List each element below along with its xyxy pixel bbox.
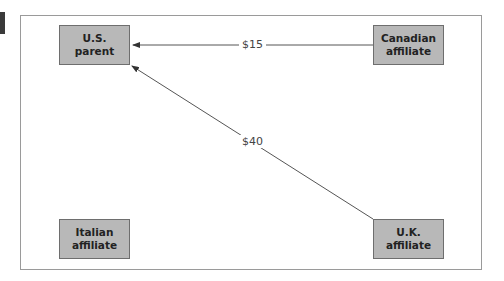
node-italian-affiliate: Italian affiliate bbox=[59, 219, 130, 259]
node-us-parent: U.S. parent bbox=[59, 25, 130, 65]
node-label-line1: Canadian bbox=[381, 32, 436, 45]
node-label-line1: U.S. bbox=[82, 32, 106, 45]
node-label-line2: affiliate bbox=[386, 45, 431, 58]
node-label-line2: affiliate bbox=[386, 239, 431, 252]
node-label-line1: U.K. bbox=[396, 226, 421, 239]
node-label-line2: affiliate bbox=[72, 239, 117, 252]
node-uk-affiliate: U.K. affiliate bbox=[373, 219, 444, 259]
flow-amount-uk: $40 bbox=[239, 135, 266, 148]
node-label-line2: parent bbox=[75, 45, 114, 58]
node-label-line1: Italian bbox=[76, 226, 114, 239]
node-canadian-affiliate: Canadian affiliate bbox=[373, 25, 444, 65]
flow-amount-canadian: $15 bbox=[239, 38, 266, 51]
